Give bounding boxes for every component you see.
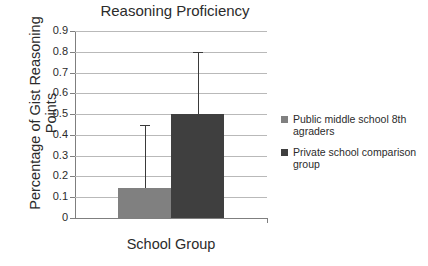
y-axis-tick-label: 0.1 [40,190,68,202]
y-axis-tick-label: 0.9 [40,24,68,36]
y-axis-tick-label: 0.3 [40,149,68,161]
chart-title: Reasoning Proficiency [75,2,275,19]
bar [118,188,171,218]
error-bar-cap [140,125,150,126]
legend-swatch-icon [281,149,288,156]
y-axis-tick-label: 0.5 [40,107,68,119]
x-axis-end-tick [267,218,268,223]
legend-item-label: Public middle school 8th agraders [293,113,426,137]
legend-swatch-icon [281,116,288,123]
y-axis-tick-label: 0.2 [40,169,68,181]
legend-item[interactable]: Public middle school 8th agraders [281,113,426,137]
legend-item[interactable]: Private school comparison group [281,146,426,170]
x-axis-title: School Group [75,236,267,252]
y-axis-tick-label: 0.4 [40,128,68,140]
y-axis-tick-label: 0 [40,211,68,223]
bar-chart: Reasoning Proficiency Percentage of Gist… [0,0,428,266]
error-bar-cap [193,52,203,53]
error-bar-line [145,125,146,188]
chart-legend: Public middle school 8th agradersPrivate… [281,113,426,179]
y-axis-tick-label: 0.6 [40,86,68,98]
error-bar-line [198,52,199,114]
x-axis-line [75,218,268,219]
y-axis-tick [70,218,75,219]
legend-item-label: Private school comparison group [293,146,426,170]
y-axis-tick-label: 0.7 [40,66,68,78]
bar [171,114,224,218]
y-axis-tick-label: 0.8 [40,45,68,57]
bars-group [75,31,267,218]
